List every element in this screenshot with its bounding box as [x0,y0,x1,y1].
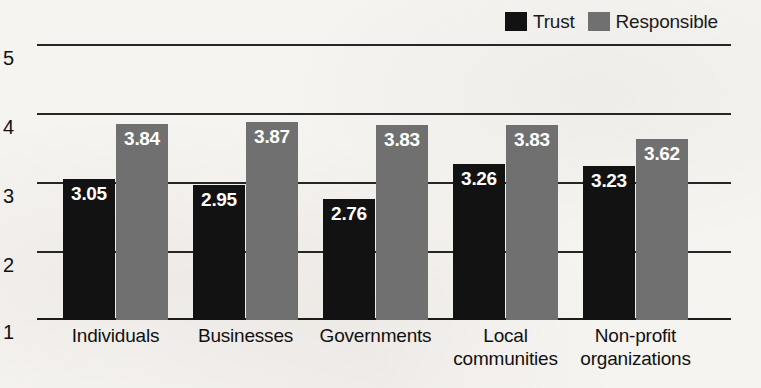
y-axis-tick-2: 2 [3,255,29,275]
plot-area: 5 4 3 2 1 3.053.842.953.872.763.833.263.… [37,44,731,320]
y-axis-tick-4: 4 [3,117,29,137]
bar-responsible[interactable]: 3.84 [116,124,168,320]
bar-group: 3.053.84 [63,44,168,320]
bar-value-label: 3.26 [453,169,505,188]
legend-item-responsible: Responsible [588,12,718,31]
bar-group: 2.953.87 [193,44,298,320]
x-axis-label: Non-profitorganizations [561,324,710,370]
x-axis-label-line: organizations [561,347,710,370]
bar-trust[interactable]: 3.26 [453,164,505,320]
bar-value-label: 3.87 [246,127,298,146]
bar-value-label: 3.23 [583,171,635,190]
x-axis-label: Businesses [171,324,320,347]
y-axis-tick-3: 3 [3,186,29,206]
x-axis-label: Governments [301,324,450,347]
bar-responsible[interactable]: 3.83 [506,125,558,320]
x-axis-label: Localcommunities [431,324,580,370]
bar-value-label: 2.76 [323,204,375,223]
x-axis-label-line: Governments [301,324,450,347]
bar-trust[interactable]: 3.23 [583,166,635,320]
x-axis-label-line: communities [431,347,580,370]
bar-value-label: 3.83 [376,130,428,149]
bar-value-label: 3.83 [506,130,558,149]
x-axis-label-line: Non-profit [561,324,710,347]
bar-trust[interactable]: 3.05 [63,179,115,320]
x-axis-label: Individuals [41,324,190,347]
x-axis-labels: IndividualsBusinessesGovernmentsLocalcom… [37,324,731,384]
bar-responsible[interactable]: 3.62 [636,139,688,320]
y-axis-tick-5: 5 [3,48,29,68]
bar-trust[interactable]: 2.76 [323,199,375,320]
bar-value-label: 3.05 [63,184,115,203]
legend-swatch-trust-icon [505,12,527,31]
x-axis-label-line: Individuals [41,324,190,347]
bar-trust[interactable]: 2.95 [193,185,245,320]
bar-value-label: 3.84 [116,129,168,148]
bar-responsible[interactable]: 3.83 [376,125,428,320]
bar-value-label: 3.62 [636,144,688,163]
bar-group: 3.233.62 [583,44,688,320]
y-axis-tick-1: 1 [3,322,29,342]
bar-group: 3.263.83 [453,44,558,320]
bar-chart: Trust Responsible 5 4 3 2 1 3.053.842.95… [0,0,761,388]
legend-item-trust: Trust [505,12,575,31]
bar-series-container: 3.053.842.953.872.763.833.263.833.233.62 [37,44,731,320]
bar-responsible[interactable]: 3.87 [246,122,298,320]
x-axis-label-line: Businesses [171,324,320,347]
bar-value-label: 2.95 [193,190,245,209]
legend-label-responsible: Responsible [616,12,718,31]
legend-swatch-responsible-icon [588,12,610,31]
bar-group: 2.763.83 [323,44,428,320]
x-axis-label-line: Local [431,324,580,347]
chart-legend: Trust Responsible [505,12,718,31]
legend-label-trust: Trust [533,12,575,31]
